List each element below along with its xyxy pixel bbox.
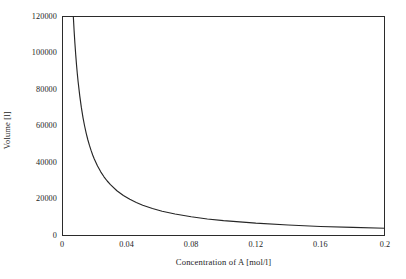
x-tick-label: 0.12 <box>248 241 263 249</box>
x-tick-label: 0.08 <box>184 241 199 249</box>
data-curve-svg <box>62 16 385 236</box>
x-tick-label: 0 <box>60 241 64 249</box>
y-axis-title: Volume [l] <box>4 111 12 149</box>
chart-figure: 0 20000 40000 60000 80000 100000 120000 … <box>0 0 406 279</box>
x-tick-label: 0.16 <box>313 241 328 249</box>
y-tick-label: 40000 <box>36 159 57 167</box>
y-tick-label: 20000 <box>36 195 57 203</box>
x-tick-label: 0.04 <box>119 241 134 249</box>
y-tick-label: 80000 <box>36 86 57 94</box>
y-tick-label: 60000 <box>36 122 57 130</box>
y-tick-label: 100000 <box>32 49 57 57</box>
y-tick-label: 0 <box>53 232 57 240</box>
x-tick-label: 0.2 <box>380 241 391 249</box>
x-axis-title: Concentration of A [mol/l] <box>62 258 385 267</box>
series-volume-line <box>73 16 385 228</box>
y-tick-label: 120000 <box>32 13 57 21</box>
